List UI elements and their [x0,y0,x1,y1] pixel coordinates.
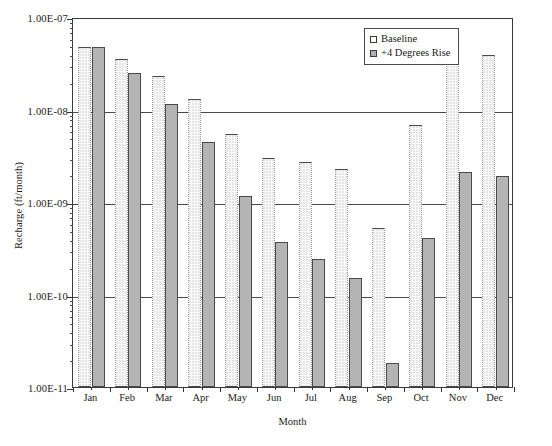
y-axis-tick-labels: 1.00E-071.00E-081.00E-091.00E-101.00E-11 [0,0,68,446]
x-axis-tick-label: Nov [449,392,467,403]
bar-nov-rise [459,172,472,387]
legend-label-rise: +4 Degrees Rise [381,46,451,60]
bar-mar-baseline [152,76,165,387]
y-axis-tick-label: 1.00E-08 [6,105,68,116]
x-axis-tick-label: Jun [267,392,282,403]
bar-dec-baseline [482,55,495,387]
bar-feb-baseline [115,59,128,387]
x-axis-tick-label: Apr [192,392,208,403]
y-axis-tick-label: 1.00E-10 [6,290,68,301]
baseline-swatch-icon [370,36,377,43]
x-axis-minor-tick [459,387,460,390]
bar-group [294,19,331,387]
x-axis-tick [514,387,515,392]
bar-group [73,19,110,387]
x-axis-minor-tick [496,387,497,390]
bar-may-rise [239,196,252,387]
x-axis-minor-tick [202,387,203,390]
bar-jun-rise [275,242,288,387]
x-axis-tick-label: Feb [119,392,135,403]
bar-group [404,19,441,387]
x-axis-minor-tick [238,387,239,390]
legend-item-rise: +4 Degrees Rise [370,46,451,60]
bar-feb-rise [128,73,141,387]
rise-swatch-icon [370,50,377,57]
x-axis-minor-tick [91,387,92,390]
bar-jul-baseline [299,162,312,387]
bar-oct-rise [422,238,435,387]
y-axis-tick-label: 1.00E-09 [6,198,68,209]
bar-dec-rise [496,176,509,387]
chart-legend: Baseline +4 Degrees Rise [364,28,459,65]
bar-group [441,19,478,387]
x-axis-minor-tick [385,387,386,390]
bar-nov-baseline [446,62,459,387]
bar-group [477,19,514,387]
x-axis-minor-tick [275,387,276,390]
bar-jan-baseline [78,47,91,387]
legend-item-baseline: Baseline [370,32,451,46]
bar-group [147,19,184,387]
bar-may-baseline [225,134,238,387]
bar-sep-rise [386,363,399,387]
bar-apr-baseline [188,99,201,387]
x-axis-title: Month [72,416,513,427]
x-axis-tick-label: Jan [83,392,97,403]
recharge-bar-chart: Recharge (ft/month) 1.00E-071.00E-081.00… [0,0,552,446]
y-axis-tick-label: 1.00E-11 [6,383,68,394]
x-axis-tick-labels: JanFebMarAprMayJunJulAugSepOctNovDec [72,392,513,412]
bar-jan-rise [92,47,105,387]
bar-group [367,19,404,387]
bar-group [220,19,257,387]
plot-area [72,18,513,388]
bar-group [183,19,220,387]
x-axis-minor-tick [349,387,350,390]
x-axis-tick-label: Mar [155,392,173,403]
bar-jun-baseline [262,158,275,387]
bar-sep-baseline [372,228,385,387]
bar-group [330,19,367,387]
x-axis-minor-tick [128,387,129,390]
bar-jul-rise [312,259,325,387]
bar-oct-baseline [409,125,422,387]
x-axis-minor-tick [422,387,423,390]
x-axis-tick-label: Oct [414,392,429,403]
bar-aug-baseline [335,169,348,387]
x-axis-tick-label: May [228,392,247,403]
x-axis-minor-tick [165,387,166,390]
bar-apr-rise [202,142,215,387]
x-axis-tick-label: Dec [486,392,503,403]
x-axis-tick-label: Jul [305,392,317,403]
bar-group [257,19,294,387]
y-axis-tick-label: 1.00E-07 [6,13,68,24]
x-axis-tick-label: Aug [339,392,357,403]
x-axis-tick-label: Sep [377,392,393,403]
bar-mar-rise [165,104,178,387]
x-axis-minor-tick [312,387,313,390]
bar-aug-rise [349,278,362,387]
legend-label-baseline: Baseline [381,32,417,46]
bar-group [110,19,147,387]
